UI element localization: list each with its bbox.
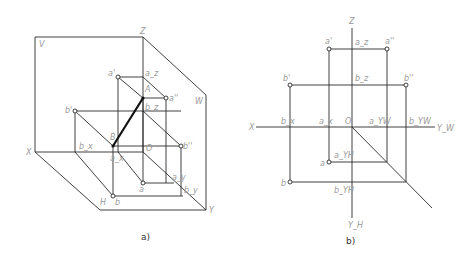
point-a-prime <box>327 47 331 51</box>
point-B <box>111 144 114 147</box>
point-b-prime <box>288 83 292 87</box>
label-Y-W: Y_W <box>437 124 455 133</box>
label-b-dprime: b'' <box>404 74 413 83</box>
label-b-prime: b' <box>65 106 72 115</box>
label-a-prime: a' <box>325 37 332 46</box>
point-a <box>327 160 331 164</box>
label-a: a <box>320 159 325 168</box>
label-b-x: b_x <box>79 142 93 151</box>
label-O: O <box>345 117 351 126</box>
point-b-dprime <box>404 83 408 87</box>
point-A <box>141 96 144 99</box>
v-plane-outline <box>35 37 143 152</box>
label-Y: Y <box>209 206 215 215</box>
label-B: B <box>110 133 116 142</box>
label-O: O <box>146 144 152 153</box>
label-a-z: a_z <box>355 38 369 47</box>
line-AB <box>113 98 143 146</box>
label-a: a <box>139 185 144 194</box>
label-a-prime: a' <box>108 69 115 78</box>
label-b-dprime: b'' <box>183 142 192 151</box>
label-b-z: b_z <box>355 74 369 83</box>
label-a-yw: a_YW <box>369 117 392 126</box>
bz-to-b-dprime <box>143 111 181 146</box>
point-b-prime <box>73 109 77 113</box>
bx-to-b <box>75 152 113 196</box>
figure-b-orthographic: Z X Y_W Y_H O a' a_z a'' b' b_z b'' b_x … <box>248 17 455 246</box>
label-a-y: a_y <box>172 173 186 182</box>
label-a-z: a_z <box>145 69 159 78</box>
label-a-x: a_x <box>110 154 124 163</box>
label-Y-H: Y_H <box>348 221 363 230</box>
label-Z: Z <box>348 17 355 26</box>
point-a-dprime <box>385 47 389 51</box>
label-Z: Z <box>139 27 146 36</box>
label-W: W <box>195 97 204 106</box>
point-b <box>288 180 292 184</box>
label-H: H <box>100 198 106 207</box>
caption-b: b) <box>346 236 355 246</box>
w-plane-outline <box>143 37 206 210</box>
label-b-y: b_y <box>184 186 198 195</box>
label-b-prime: b' <box>283 74 290 83</box>
45-degree-line <box>352 127 432 208</box>
label-a-yh: a_YH <box>334 151 354 160</box>
label-b-z: b_z <box>145 103 159 112</box>
label-V: V <box>39 40 45 49</box>
label-b: b <box>115 198 120 207</box>
b-prime-to-B <box>75 111 113 146</box>
projection-diagrams: V Z W X H Y a' a_z A a'' b' b_z B b_x a_… <box>0 0 467 260</box>
label-A: A <box>144 85 150 94</box>
label-a-dprime: a'' <box>385 37 394 46</box>
point-a-dprime <box>164 96 168 100</box>
point-a-prime <box>116 75 120 79</box>
label-b-x: b_x <box>281 117 295 126</box>
label-a-dprime: a'' <box>169 94 178 103</box>
label-X: X <box>248 123 255 132</box>
caption-a: a) <box>141 232 150 242</box>
label-b-yw: b_YW <box>409 117 432 126</box>
label-a-x: a_x <box>319 117 333 126</box>
label-b: b <box>281 179 286 188</box>
label-X: X <box>25 148 32 157</box>
label-b-yh: b_YH <box>334 186 354 195</box>
a-prime-to-A <box>118 77 143 98</box>
figure-a-pictorial: V Z W X H Y a' a_z A a'' b' b_z B b_x a_… <box>25 27 215 242</box>
